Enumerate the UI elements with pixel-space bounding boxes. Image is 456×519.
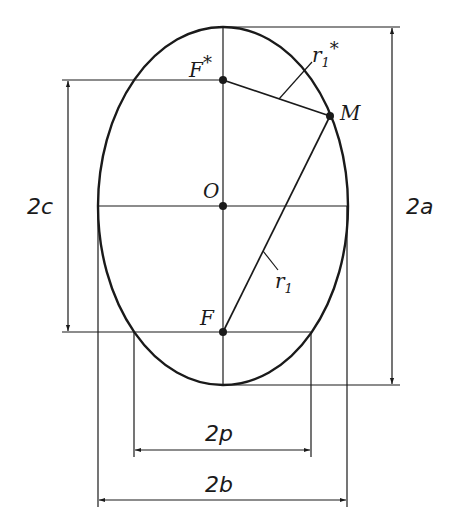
label-r1-star: r1* [312,38,339,70]
leader-r1-star [279,62,312,99]
radius-r1-star [223,80,330,116]
dim-label-2a: 2a [406,194,433,219]
label-center: O [203,179,219,203]
leader-r1 [263,251,278,270]
focus-top-point [219,76,227,84]
point-m [326,112,334,120]
label-focus-bottom: F [199,306,215,330]
center-point [219,202,227,210]
dim-label-2p: 2p [205,421,233,446]
focus-bottom-point [219,328,227,336]
dim-label-2c: 2c [27,194,53,219]
label-r1: r1 [275,269,293,296]
dim-label-2b: 2b [205,472,233,497]
ellipse-diagram: F* r1* M O r1 F 2a 2c 2p 2b [0,0,456,519]
radius-r1 [223,116,330,332]
label-point-m: M [339,101,361,125]
label-focus-top: F* [188,52,212,82]
